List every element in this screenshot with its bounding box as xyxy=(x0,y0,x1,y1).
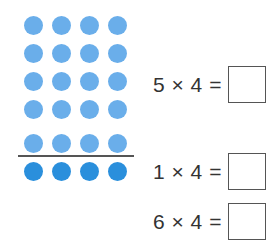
equation-text: 6 × 4 = xyxy=(153,210,228,234)
dot-dark xyxy=(80,162,99,181)
answer-box-6x4[interactable] xyxy=(228,203,266,240)
dot-light xyxy=(52,134,71,153)
dot-light xyxy=(80,44,99,63)
dot-light xyxy=(24,44,43,63)
dot-dark xyxy=(24,162,43,181)
dot-light xyxy=(24,72,43,91)
dot-light xyxy=(52,100,71,119)
dot-light xyxy=(24,100,43,119)
equation-text: 1 × 4 = xyxy=(153,160,228,184)
dot-light xyxy=(80,134,99,153)
equation-text: 5 × 4 = xyxy=(153,73,228,97)
dot-dark xyxy=(108,162,127,181)
dot-dark xyxy=(52,162,71,181)
dot-light xyxy=(24,134,43,153)
dot-light xyxy=(108,16,127,35)
dot-light xyxy=(52,16,71,35)
dot-light xyxy=(108,44,127,63)
dot-light xyxy=(108,100,127,119)
equation-1x4: 1 × 4 = xyxy=(153,153,266,190)
dot-light xyxy=(80,72,99,91)
equation-5x4: 5 × 4 = xyxy=(153,66,266,103)
dot-light xyxy=(108,72,127,91)
dot-light xyxy=(24,16,43,35)
equation-6x4: 6 × 4 = xyxy=(153,203,266,240)
dot-light xyxy=(52,72,71,91)
answer-box-5x4[interactable] xyxy=(228,66,266,103)
divider-line xyxy=(18,155,134,157)
dot-light xyxy=(80,100,99,119)
dot-light xyxy=(52,44,71,63)
answer-box-1x4[interactable] xyxy=(228,153,266,190)
dot-light xyxy=(80,16,99,35)
dot-light xyxy=(108,134,127,153)
